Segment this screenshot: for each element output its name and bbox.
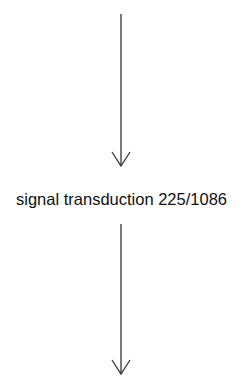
- node-label-signal-transduction: signal transduction 225/1086: [0, 190, 243, 209]
- arrow-down-icon-bottom: [110, 224, 132, 376]
- clipped-previous-label: [78, 0, 108, 3]
- arrow-down-icon-top: [110, 14, 132, 167]
